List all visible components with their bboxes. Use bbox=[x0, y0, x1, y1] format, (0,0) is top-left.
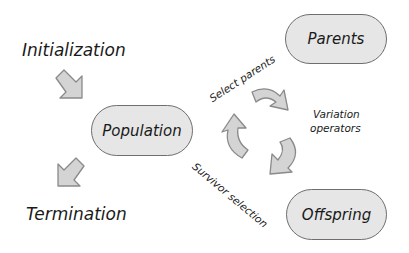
curved-arrow-left-up-icon bbox=[216, 112, 256, 160]
curved-arrow-top-right-icon bbox=[250, 86, 296, 126]
offspring-node: Offspring bbox=[286, 189, 387, 240]
population-node: Population bbox=[91, 105, 193, 156]
arrow-down-left-icon bbox=[56, 158, 92, 190]
arrow-down-right-icon bbox=[54, 70, 90, 102]
parents-node: Parents bbox=[285, 14, 387, 64]
initialization-label: Initialization bbox=[22, 40, 126, 60]
termination-label: Termination bbox=[26, 204, 127, 224]
survivor-selection-label: Survivor selection bbox=[190, 160, 270, 230]
variation-operators-label-1: Variation bbox=[313, 108, 360, 120]
curved-arrow-bottom-icon bbox=[262, 136, 302, 180]
variation-operators-label-2: operators bbox=[310, 122, 361, 134]
